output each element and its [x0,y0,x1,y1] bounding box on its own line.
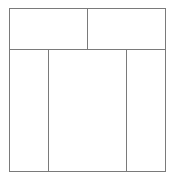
bottom-left-panel [10,50,48,171]
top-left-panel [10,9,87,49]
top-right-panel [88,9,165,49]
bottom-right-panel [127,50,165,171]
bottom-center-panel [49,50,126,171]
